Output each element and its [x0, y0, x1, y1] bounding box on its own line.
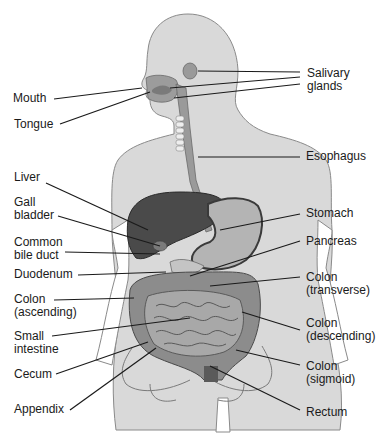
label-colon-ascending: Colon (ascending) [14, 293, 77, 319]
label-common-bile-duct: Common bile duct [14, 236, 63, 262]
digestive-system-diagram: Mouth Tongue Liver Gall bladder Common b… [0, 0, 386, 439]
label-stomach: Stomach [306, 207, 353, 220]
label-liver: Liver [14, 171, 40, 184]
label-colon-sigmoid: Colon (sigmoid) [306, 360, 355, 386]
label-gall-bladder: Gall bladder [14, 196, 54, 222]
label-colon-transverse: Colon (transverse) [306, 271, 370, 297]
label-pancreas: Pancreas [306, 235, 357, 248]
label-esophagus: Esophagus [306, 150, 366, 163]
label-appendix: Appendix [14, 403, 64, 416]
label-small-intestine: Small intestine [14, 330, 59, 356]
label-cecum: Cecum [14, 368, 52, 381]
label-salivary-glands: Salivary glands [307, 67, 350, 93]
small-intestine-shape [145, 290, 244, 356]
label-mouth: Mouth [13, 92, 46, 105]
label-colon-descending: Colon (descending) [306, 317, 375, 343]
label-tongue: Tongue [14, 118, 53, 131]
label-rectum: Rectum [306, 406, 347, 419]
label-duodenum: Duodenum [14, 268, 73, 281]
parotid-gland [183, 63, 197, 79]
leg-split [216, 398, 230, 432]
